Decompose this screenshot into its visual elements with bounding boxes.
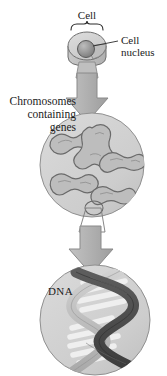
label-dna: DNA: [48, 285, 73, 297]
label-chromosomes-line2: containing: [27, 108, 76, 121]
label-chromosomes-line1: Chromosomes: [10, 95, 77, 107]
label-cell-nucleus-line1: Cell: [121, 34, 139, 46]
cell-structure: [68, 32, 106, 66]
cell-to-dna-diagram: Cell Cell nucleus Chromosomes containing…: [0, 0, 167, 376]
cell-nucleus-sphere: [78, 41, 95, 58]
label-chromosomes-line3: genes: [50, 121, 77, 134]
label-cell: Cell: [78, 9, 96, 21]
diagram-canvas: Cell Cell nucleus Chromosomes containing…: [0, 0, 167, 376]
cell-brace: [71, 21, 103, 30]
label-cell-nucleus-line2: nucleus: [121, 46, 155, 58]
